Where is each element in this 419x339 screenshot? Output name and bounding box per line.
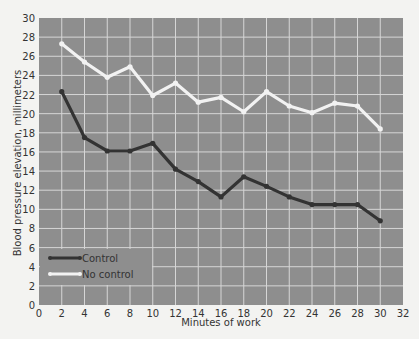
data-point xyxy=(105,148,110,153)
x-tick-label: 8 xyxy=(127,308,133,319)
data-point xyxy=(287,194,292,199)
data-point xyxy=(355,103,360,108)
data-point xyxy=(105,75,110,80)
data-point xyxy=(82,59,87,64)
x-tick-label: 30 xyxy=(374,308,387,319)
y-tick-label: 2 xyxy=(29,281,35,292)
legend-label-control: Control xyxy=(82,253,118,264)
y-tick-label: 14 xyxy=(22,166,35,177)
y-tick-label: 16 xyxy=(22,147,35,158)
data-point xyxy=(196,179,201,184)
x-tick-label: 4 xyxy=(81,308,87,319)
data-point xyxy=(82,135,87,140)
legend: Control No control xyxy=(40,249,152,285)
y-tick-label: 4 xyxy=(29,262,35,273)
data-point xyxy=(241,109,246,114)
y-tick-label: 28 xyxy=(22,32,35,43)
x-tick-label: 2 xyxy=(59,308,65,319)
chart-canvas: 024681012141618202224262830 024681012141… xyxy=(0,0,419,339)
data-point xyxy=(196,100,201,105)
x-tick-label: 12 xyxy=(169,308,182,319)
data-point xyxy=(309,110,314,115)
x-axis-label: Minutes of work xyxy=(181,317,261,328)
y-tick-label: 8 xyxy=(29,223,35,234)
data-point xyxy=(59,41,64,46)
data-point xyxy=(332,202,337,207)
data-point xyxy=(287,103,292,108)
y-tick-label: 30 xyxy=(22,13,35,24)
data-point xyxy=(309,202,314,207)
data-point xyxy=(218,194,223,199)
x-tick-label: 26 xyxy=(328,308,341,319)
x-tick-label: 32 xyxy=(397,308,410,319)
x-tick-label: 0 xyxy=(36,308,42,319)
y-tick-label: 24 xyxy=(22,70,35,81)
data-point xyxy=(150,93,155,98)
data-point xyxy=(127,148,132,153)
y-tick-label: 10 xyxy=(22,204,35,215)
data-point xyxy=(241,174,246,179)
y-axis-label: Blood pressure elevation, millimeters xyxy=(12,70,23,257)
data-point xyxy=(332,101,337,106)
data-point xyxy=(378,218,383,223)
x-tick-label: 6 xyxy=(104,308,110,319)
data-point xyxy=(218,95,223,100)
y-tick-label: 26 xyxy=(22,51,35,62)
data-point xyxy=(378,126,383,131)
y-tick-label: 20 xyxy=(22,109,35,120)
x-tick-label: 10 xyxy=(146,308,159,319)
x-tick-label: 28 xyxy=(351,308,364,319)
data-point xyxy=(264,89,269,94)
y-tick-label: 6 xyxy=(29,243,35,254)
data-point xyxy=(127,64,132,69)
x-tick-label: 24 xyxy=(306,308,319,319)
line-chart: 024681012141618202224262830 024681012141… xyxy=(0,0,419,339)
y-tick-label: 18 xyxy=(22,128,35,139)
data-point xyxy=(59,89,64,94)
y-tick-label: 12 xyxy=(22,185,35,196)
data-point xyxy=(264,184,269,189)
data-point xyxy=(173,80,178,85)
y-tick-label: 22 xyxy=(22,90,35,101)
data-point xyxy=(173,167,178,172)
x-tick-label: 20 xyxy=(260,308,273,319)
y-axis-ticks: 024681012141618202224262830 xyxy=(22,13,35,311)
data-point xyxy=(355,202,360,207)
legend-label-no-control: No control xyxy=(82,269,133,280)
data-point xyxy=(150,141,155,146)
y-tick-label: 0 xyxy=(29,300,35,311)
x-tick-label: 22 xyxy=(283,308,296,319)
